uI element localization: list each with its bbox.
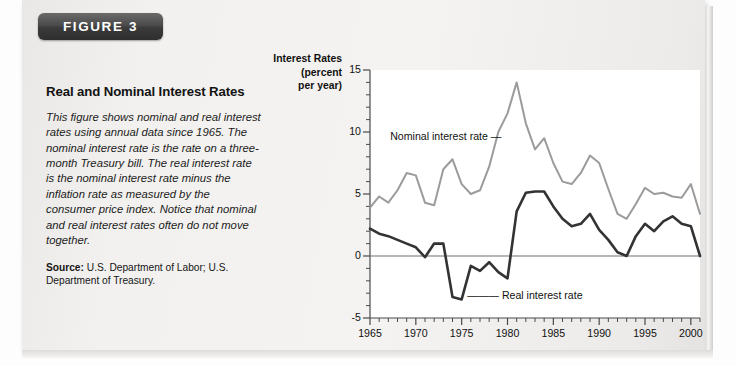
y-tick-label: 5 bbox=[335, 187, 361, 199]
page-bottom-shadow bbox=[22, 350, 713, 358]
annotation-nominal-interest-rate: Nominal interest rate — bbox=[390, 130, 501, 142]
x-tick-label: 1990 bbox=[579, 327, 619, 339]
x-tick-label: 1980 bbox=[488, 327, 528, 339]
x-tick-label: 1965 bbox=[350, 327, 390, 339]
x-tick-label: 1975 bbox=[442, 327, 482, 339]
y-tick-label: 0 bbox=[335, 249, 361, 261]
figure-source: Source: U.S. Department of Labor; U.S. D… bbox=[46, 261, 261, 287]
figure-text-column: Real and Nominal Interest Rates This fig… bbox=[46, 84, 261, 287]
y-axis-title-line-0: Interest Rates bbox=[262, 52, 342, 66]
y-axis-title: Interest Rates(percentper year) bbox=[262, 52, 342, 93]
figure-description: This figure shows nominal and real inter… bbox=[46, 110, 261, 249]
x-tick-label: 1985 bbox=[533, 327, 573, 339]
x-tick-label: 1995 bbox=[625, 327, 665, 339]
y-tick-label: 10 bbox=[335, 125, 361, 137]
figure-title: Real and Nominal Interest Rates bbox=[46, 84, 261, 100]
figure-number-badge: FIGURE 3 bbox=[38, 13, 163, 40]
figure-source-prefix: Source: bbox=[46, 262, 84, 273]
figure-page: FIGURE 3 Real and Nominal Interest Rates… bbox=[0, 0, 736, 366]
plot-background bbox=[370, 70, 700, 318]
y-tick-label: 15 bbox=[335, 63, 361, 75]
annotation-real-interest-rate: ——— Real interest rate bbox=[467, 289, 582, 301]
x-tick-label: 2000 bbox=[671, 327, 711, 339]
y-tick-label: -5 bbox=[335, 311, 361, 323]
figure-number-label: FIGURE 3 bbox=[63, 19, 138, 34]
interest-rates-chart: Interest Rates(percentper year) 151050-5… bbox=[262, 44, 702, 344]
y-axis-title-line-2: per year) bbox=[262, 79, 342, 93]
page-edge bbox=[705, 6, 713, 350]
x-tick-label: 1970 bbox=[396, 327, 436, 339]
y-axis-title-line-1: (percent bbox=[262, 66, 342, 80]
plot-area: 151050-519651970197519801985199019952000… bbox=[344, 52, 702, 344]
